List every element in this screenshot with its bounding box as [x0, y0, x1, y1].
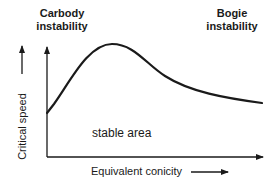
carbody-label-line1: Carbody — [30, 7, 94, 20]
stable-area-label: stable area — [92, 127, 151, 140]
carbody-instability-label: Carbody instability — [30, 7, 94, 33]
bogie-label-line2: instability — [200, 20, 264, 33]
critical-speed-curve — [47, 44, 262, 113]
bogie-label-line1: Bogie — [200, 7, 264, 20]
x-axis-label: Equivalent conicity — [91, 165, 182, 178]
y-axis-label: Critical speed — [16, 82, 29, 172]
bogie-instability-label: Bogie instability — [200, 7, 264, 33]
carbody-label-line2: instability — [30, 20, 94, 33]
